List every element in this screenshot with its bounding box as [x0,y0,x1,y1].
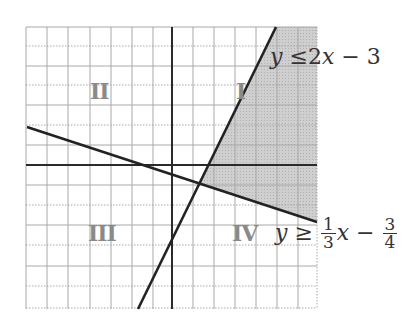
minus: − [349,220,381,245]
quadrant-label-I: I [236,78,245,104]
frac-den: 3 [321,234,336,251]
fraction-one-third: 13 [321,216,336,251]
rhs-rest: − 3 [334,44,380,69]
var-y: y [270,44,282,69]
op-ge: ≥ [294,220,312,245]
op-le: ≤ [289,44,307,69]
quadrant-label-III: III [88,220,116,246]
inequality-label-shallow: y ≥ 13x − 34 [275,216,398,251]
quadrant-label-IV: IV [232,220,257,246]
frac-den: 4 [383,234,398,251]
inequality-label-steep: y ≤2x − 3 [270,44,381,69]
coef: 2 [308,44,322,69]
var-x: x [322,44,334,69]
fraction-three-quarters: 34 [383,216,398,251]
quadrant-label-II: II [90,78,109,104]
var-y: y [275,220,287,245]
var-x: x [337,220,349,245]
